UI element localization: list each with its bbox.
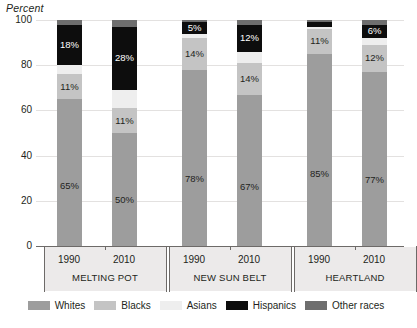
y-tick-20: 20 — [2, 195, 32, 206]
gridline-80 — [36, 65, 404, 66]
year-label-new-sun-belt-1990: 1990 — [171, 254, 217, 265]
segment-label-blacks: 14% — [237, 74, 262, 84]
segment-blacks: 11% — [112, 108, 137, 133]
segment-label-hispanics: 12% — [237, 33, 262, 43]
legend-label-hispanics: Hispanics — [253, 300, 296, 311]
segment-label-whites: 85% — [307, 169, 332, 179]
legend-item-other-races[interactable]: Other races — [305, 300, 384, 311]
y-tick-60: 60 — [2, 104, 32, 115]
year-label-heartland-1990: 1990 — [296, 254, 342, 265]
category-axis: MELTING POT 1990 2010 NEW SUN BELT 1990 … — [36, 247, 404, 291]
segment-whites: 85% — [307, 54, 332, 246]
segment-asians — [237, 52, 262, 63]
segment-label-hispanics: 6% — [362, 27, 387, 37]
group-divider — [294, 246, 295, 292]
group-label-heartland: HEARTLAND — [294, 272, 416, 283]
y-axis-unit-label: Percent — [6, 2, 44, 14]
group-label-melting-pot: MELTING POT — [44, 272, 166, 283]
segment-hispanics: 6% — [362, 25, 387, 39]
minor-tick — [230, 246, 231, 250]
y-axis-tick-labels: 0 20 40 60 80 100 — [0, 20, 32, 246]
legend-swatch-hispanics — [226, 301, 248, 310]
segment-label-blacks: 11% — [307, 37, 332, 47]
legend-label-other-races: Other races — [332, 300, 384, 311]
segment-label-blacks: 14% — [182, 49, 207, 59]
group-divider — [44, 246, 45, 292]
legend-swatch-asians — [160, 301, 182, 310]
segment-label-blacks: 11% — [112, 116, 137, 126]
legend-swatch-whites — [28, 301, 50, 310]
segment-hispanics: 18% — [57, 25, 82, 66]
segment-label-whites: 77% — [362, 175, 387, 185]
segment-label-whites: 78% — [182, 174, 207, 184]
segment-blacks: 14% — [237, 63, 262, 95]
segment-label-hispanics: 18% — [57, 40, 82, 50]
year-label-new-sun-belt-2010: 2010 — [226, 254, 272, 265]
segment-asians — [57, 65, 82, 74]
segment-hispanics: 12% — [237, 25, 262, 52]
segment-whites: 50% — [112, 133, 137, 246]
bar-heartland-1990[interactable]: 11% 85% — [307, 20, 332, 246]
segment-asians — [112, 90, 137, 108]
gridline-40 — [36, 156, 404, 157]
legend-label-asians: Asians — [187, 300, 217, 311]
y-tick-0: 0 — [2, 240, 32, 251]
segment-blacks: 11% — [307, 29, 332, 54]
segment-hispanics: 28% — [112, 27, 137, 90]
gridline-100 — [36, 20, 404, 21]
gridline-20 — [36, 201, 404, 202]
segment-label-whites: 65% — [57, 181, 82, 191]
gridline-60 — [36, 110, 404, 111]
segment-other-races — [112, 20, 137, 27]
segment-whites: 77% — [362, 72, 387, 246]
minor-tick — [105, 246, 106, 250]
segment-whites: 67% — [237, 95, 262, 246]
bar-new-sun-belt-2010[interactable]: 12% 14% 67% — [237, 20, 262, 246]
group-label-new-sun-belt: NEW SUN BELT — [169, 272, 291, 283]
legend-item-blacks[interactable]: Blacks — [94, 300, 150, 311]
y-tick-80: 80 — [2, 59, 32, 70]
segment-label-hispanics: 28% — [112, 54, 137, 64]
year-label-heartland-2010: 2010 — [351, 254, 397, 265]
y-tick-100: 100 — [2, 14, 32, 25]
segment-whites: 65% — [57, 99, 82, 246]
legend-swatch-blacks — [94, 301, 116, 310]
bar-melting-pot-2010[interactable]: 28% 11% 50% — [112, 20, 137, 246]
segment-whites: 78% — [182, 70, 207, 246]
minor-tick — [355, 246, 356, 250]
legend-item-asians[interactable]: Asians — [160, 300, 217, 311]
group-divider — [166, 246, 167, 292]
segment-hispanics: 5% — [182, 22, 207, 33]
group-divider — [291, 246, 292, 292]
year-label-melting-pot-1990: 1990 — [46, 254, 92, 265]
plot-area: 18% 11% 65% 28% 11% 50% — [36, 20, 404, 246]
bar-new-sun-belt-1990[interactable]: 5% 14% 78% — [182, 20, 207, 246]
bar-melting-pot-1990[interactable]: 18% 11% 65% — [57, 20, 82, 246]
chart-legend: Whites Blacks Asians Hispanics Other rac… — [0, 300, 412, 311]
segment-label-blacks: 12% — [362, 54, 387, 64]
segment-blacks: 11% — [57, 74, 82, 99]
segment-label-whites: 50% — [112, 195, 137, 205]
legend-label-whites: Whites — [55, 300, 86, 311]
year-label-melting-pot-2010: 2010 — [101, 254, 147, 265]
legend-item-hispanics[interactable]: Hispanics — [226, 300, 296, 311]
segment-blacks: 14% — [182, 38, 207, 70]
segment-blacks: 12% — [362, 45, 387, 72]
y-tick-40: 40 — [2, 150, 32, 161]
group-divider — [169, 246, 170, 292]
segment-label-whites: 67% — [237, 182, 262, 192]
legend-swatch-other-races — [305, 301, 327, 310]
segment-asians — [362, 38, 387, 45]
segment-label-hispanics: 5% — [182, 23, 207, 33]
segment-label-blacks: 11% — [57, 82, 82, 92]
legend-label-blacks: Blacks — [121, 300, 150, 311]
bar-heartland-2010[interactable]: 6% 12% 77% — [362, 20, 387, 246]
legend-item-whites[interactable]: Whites — [28, 300, 86, 311]
